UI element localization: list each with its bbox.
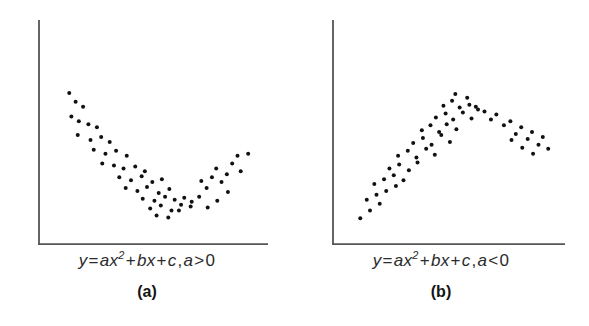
scatter-point [167,187,171,191]
eq-plus1-a: + [125,251,137,270]
scatter-point [407,168,411,172]
caption-a: y=ax2+bx+c,a>0 (a) [0,252,294,301]
eq-cond-op-a: > [193,251,205,270]
eq-term2-coef-a: b [137,251,147,270]
scatter-point [135,189,139,193]
scatter-point [81,105,85,109]
scatter-point [536,143,540,147]
scatter-point [387,166,391,170]
scatter-point [215,199,219,203]
scatter-point [396,154,400,158]
eq-comma-a: , [177,251,184,270]
scatter-point [451,117,455,121]
scatter-point [453,92,457,96]
eq-cond-val-b: 0 [500,251,510,270]
scatter-point [530,130,534,134]
scatter-point [205,186,209,190]
scatter-point [392,173,396,177]
caption-b: y=ax2+bx+c,a<0 (b) [294,252,588,301]
scatter-point [225,172,229,176]
scatter-point [430,143,434,147]
scatter-point [133,164,137,168]
scatter-point [210,175,214,179]
equation-a: y=ax2+bx+c,a>0 [0,252,294,271]
scatter-point [100,161,104,165]
panel-label-b: (b) [294,283,588,301]
scatter-point [220,180,224,184]
scatter-point [450,99,454,103]
scatter-point [112,163,116,167]
scatter-point [103,152,107,156]
scatter-point [465,96,469,100]
eq-comma-b: , [471,251,478,270]
scatter-point [74,100,78,104]
scatter-point [428,123,432,127]
scatter-point [236,154,240,158]
scatter-point [159,204,163,208]
scatter-point [514,132,518,136]
scatter-point [526,137,530,141]
scatter-point [69,114,73,118]
equation-b: y=ax2+bx+c,a<0 [294,252,588,271]
scatter-point [474,105,478,109]
scatter-point [179,203,183,207]
scatter-point [125,154,129,158]
eq-term1-exponent-a: 2 [118,249,124,261]
scatter-point [546,147,550,151]
scatter-point [206,206,210,210]
panel-b: y=ax2+bx+c,a<0 (b) [294,0,588,326]
scatter-point [246,152,250,156]
eq-term1-coef-a: a [100,251,110,270]
scatter-point [531,152,535,156]
scatter-point [414,156,418,160]
scatter-point [92,148,96,152]
scatter-point [421,136,425,140]
scatter-point [150,180,154,184]
scatter-point [441,104,445,108]
eq-equals-a: = [87,251,99,270]
scatter-point [199,179,203,183]
panel-a: y=ax2+bx+c,a>0 (a) [0,0,294,326]
eq-plus2-a: + [156,251,168,270]
scatter-point [230,161,234,165]
scatter-point [122,166,126,170]
scatter-point [454,127,458,131]
eq-term3-b: c [462,251,471,270]
scatter-point [541,135,545,139]
scatter-point [508,119,512,123]
scatter-point [416,161,420,165]
eq-plus2-b: + [450,251,462,270]
scatter-point [67,91,71,95]
scatter-point [99,135,103,139]
scatter-point [445,122,449,126]
scatter-point [166,215,170,219]
scatter-point [141,197,145,201]
eq-plus1-b: + [419,251,431,270]
scatter-point [519,125,523,129]
scatter-point [448,140,452,144]
scatter-point [384,189,388,193]
eq-equals-b: = [381,251,393,270]
scatter-plot-b [294,0,588,256]
scatter-point [114,149,118,153]
data-points-a [67,91,250,219]
eq-term2-var-a: x [147,251,156,270]
scatter-point [214,166,218,170]
scatter-point [140,174,144,178]
eq-cond-var-b: a [478,251,488,270]
scatter-point [461,111,465,115]
scatter-point [239,169,243,173]
eq-term1-var-b: x [403,251,412,270]
scatter-point [197,195,201,199]
scatter-point [494,112,498,116]
scatter-point [157,191,161,195]
eq-term1-coef-b: a [394,251,404,270]
scatter-point [489,117,493,121]
scatter-point [189,205,193,209]
panel-label-a: (a) [0,283,294,301]
eq-term2-var-b: x [441,251,450,270]
axes-a [38,20,268,245]
scatter-point [374,193,378,197]
scatter-point [190,200,194,204]
scatter-point [394,184,398,188]
